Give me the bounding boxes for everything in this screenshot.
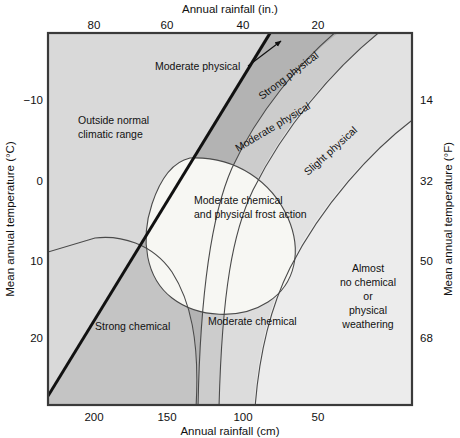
tick-right-2: 50	[420, 255, 433, 267]
tick-left-2: 10	[30, 255, 43, 267]
weathering-diagram-figure: Outside normal climatic range Moderate p…	[0, 0, 460, 438]
tick-top-0: 80	[88, 19, 101, 31]
region-label-outside-normal-line2: climatic range	[78, 128, 143, 140]
axis-title-right: Mean annual temperature (°F)	[442, 142, 454, 296]
region-label-strong-chemical: Strong chemical	[95, 320, 170, 332]
tick-bottom-1: 150	[157, 411, 176, 423]
tick-bottom-0: 200	[84, 411, 103, 423]
tick-left-3: 20	[30, 332, 43, 344]
tick-bottom-3: 50	[312, 411, 325, 423]
region-label-almost-none-line5: weathering	[341, 318, 394, 330]
tick-right-3: 68	[420, 332, 433, 344]
region-label-almost-none-line1: Almost	[352, 262, 384, 274]
region-label-almost-none-line4: physical	[349, 304, 387, 316]
axis-title-bottom: Annual rainfall (cm)	[180, 425, 279, 437]
region-label-almost-none-line3: or	[363, 290, 373, 302]
tick-top-1: 60	[161, 19, 174, 31]
region-label-almost-none-line2: no chemical	[340, 276, 396, 288]
tick-right-0: 14	[420, 94, 433, 106]
axis-title-top: Annual rainfall (in.)	[182, 3, 278, 15]
tick-right-1: 32	[420, 175, 433, 187]
tick-top-2: 40	[237, 19, 250, 31]
region-label-frost-action-line2: and physical frost action	[194, 208, 307, 220]
tick-bottom-2: 100	[233, 411, 252, 423]
region-label-moderate-physical-upper: Moderate physical	[155, 60, 240, 72]
tick-left-0: −10	[23, 94, 43, 106]
region-label-moderate-chemical: Moderate chemical	[208, 315, 297, 327]
tick-left-1: 0	[37, 175, 43, 187]
region-label-frost-action-line1: Moderate chemical	[194, 194, 283, 206]
axis-title-left: Mean annual temperature (°C)	[4, 141, 16, 297]
diagram-canvas: Outside normal climatic range Moderate p…	[0, 0, 460, 438]
region-label-outside-normal-line1: Outside normal	[78, 114, 149, 126]
tick-top-3: 20	[312, 19, 325, 31]
